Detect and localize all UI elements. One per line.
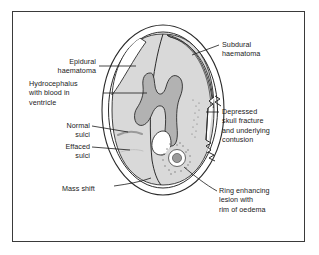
label-ring-enhancing-lesion: Ring enhancing lesion with rim of oedema [219,186,305,214]
label-mass-shift: Mass shift [62,184,114,193]
label-subdural-haematoma: Subdural haematoma [222,40,300,59]
figure-container: Epidural haematoma Hydrocephalus with bl… [0,0,319,255]
label-hydrocephalus: Hydrocephalus with blood in ventricle [29,79,99,107]
label-depressed-skull-fracture: Depressed skull fracture and underlying … [222,107,306,145]
label-effaced-sulci: Effaced sulci [34,142,90,161]
ring-enhancing-lesion [165,146,190,171]
label-normal-sulci: Normal sulci [34,121,90,140]
label-epidural-haematoma: Epidural haematoma [34,57,96,76]
